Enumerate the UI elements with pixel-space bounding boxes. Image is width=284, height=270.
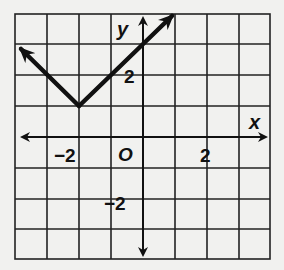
y-tick-pos2: 2: [124, 66, 135, 87]
x-axis-label: x: [248, 111, 261, 133]
function-graph: [21, 16, 172, 106]
origin-label: O: [118, 144, 133, 165]
x-tick-neg2: −2: [54, 145, 76, 166]
axes: [22, 18, 266, 255]
y-tick-neg2: −2: [104, 193, 126, 214]
x-tick-pos2: 2: [200, 145, 211, 166]
y-axis-label: y: [116, 18, 129, 40]
coordinate-plane: y x O −2 2 2 −2: [0, 0, 284, 270]
